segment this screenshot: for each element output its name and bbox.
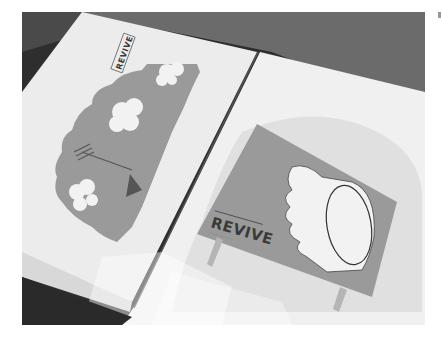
book-photo: REVIVE REVIVE ········ ····· ······· (22, 12, 425, 325)
photo-frame: REVIVE REVIVE ········ ····· ······· (22, 12, 425, 325)
edge-mark (438, 12, 441, 18)
